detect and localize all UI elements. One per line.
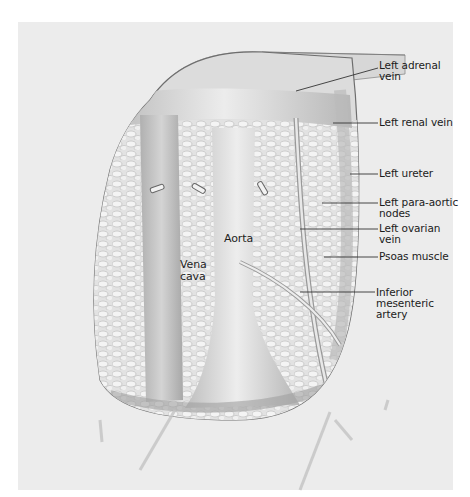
label-left-ureter: Left ureter xyxy=(379,168,433,179)
label-left-renal-vein: Left renal vein xyxy=(379,117,453,128)
label-left-adrenal-vein: Left adrenal vein xyxy=(379,60,441,82)
label-aorta: Aorta xyxy=(224,233,253,245)
label-left-para-aortic-nodes: Left para-aortic nodes xyxy=(379,197,458,219)
label-psoas-muscle: Psoas muscle xyxy=(379,251,449,262)
label-left-ovarian-vein: Left ovarian vein xyxy=(379,223,440,245)
label-vena-cava: Vena cava xyxy=(180,259,207,283)
label-inferior-mesenteric-artery: Inferior mesenteric artery xyxy=(376,287,434,320)
